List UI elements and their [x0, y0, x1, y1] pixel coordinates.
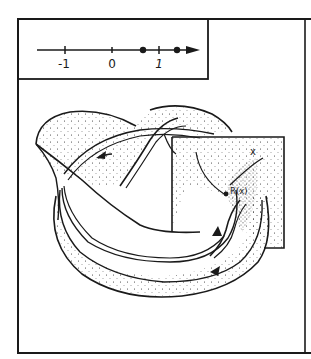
- label-rx: R(x): [230, 186, 248, 196]
- flow-arrow-icon: [212, 226, 222, 236]
- number-line-inset: -1 0 1: [18, 19, 208, 79]
- point-dot-b: [174, 47, 180, 53]
- arrow-head-icon: [186, 46, 200, 54]
- label-x: x: [250, 146, 256, 157]
- point-dot-a: [140, 47, 146, 53]
- tick-label-minus-1: -1: [58, 57, 70, 71]
- tick-label-1: 1: [155, 57, 163, 71]
- tick-label-0: 0: [108, 57, 116, 71]
- figure-canvas: -1 0 1 x: [0, 0, 311, 359]
- point-rx: [224, 192, 229, 197]
